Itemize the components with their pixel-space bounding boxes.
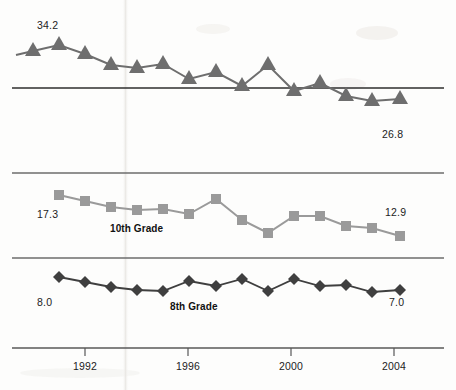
- data-point-marker: [155, 55, 171, 69]
- data-point-marker: [263, 228, 273, 238]
- data-point-marker: [183, 275, 195, 287]
- series-label-8th-grade: 8th Grade: [170, 301, 218, 312]
- data-point-marker: [210, 280, 222, 292]
- page-fold-artifact: [122, 0, 129, 390]
- x-tick-label-1996: 1996: [176, 360, 200, 372]
- data-point-marker: [314, 280, 326, 292]
- chart-canvas: [0, 0, 456, 390]
- data-point-marker: [129, 59, 145, 73]
- data-point-marker: [105, 281, 117, 293]
- data-point-marker: [394, 284, 406, 296]
- data-point-marker: [237, 215, 247, 225]
- data-point-marker: [366, 286, 378, 298]
- data-point-marker: [131, 284, 143, 296]
- data-point-marker: [260, 56, 276, 70]
- data-point-marker: [184, 209, 194, 219]
- data-point-marker: [157, 285, 169, 297]
- data-point-marker: [211, 194, 221, 204]
- label-10th-grade-end: 12.9: [385, 206, 406, 218]
- x-tick-label-1992: 1992: [73, 360, 97, 372]
- data-point-marker: [262, 285, 274, 297]
- data-point-marker: [236, 273, 248, 285]
- series-8th-grade: [53, 271, 406, 298]
- data-point-marker: [312, 74, 328, 88]
- data-point-marker: [315, 211, 325, 221]
- data-point-marker: [289, 211, 299, 221]
- data-point-marker: [288, 273, 300, 285]
- data-point-marker: [132, 205, 142, 215]
- label-8th-grade-start: 8.0: [37, 296, 52, 308]
- data-point-marker: [340, 279, 352, 291]
- data-point-marker: [80, 196, 90, 206]
- series-12th-grade-line: [16, 45, 400, 101]
- series-label-10th-grade: 10th Grade: [110, 223, 163, 234]
- label-8th-grade-end: 7.0: [389, 296, 404, 308]
- data-point-marker: [395, 231, 405, 241]
- data-point-marker: [392, 90, 408, 104]
- label-10th-grade-start: 17.3: [37, 208, 58, 220]
- series-10th-grade: [54, 190, 405, 241]
- label-12th-grade-start: 34.2: [37, 19, 58, 31]
- x-axis: [12, 348, 444, 356]
- data-point-marker: [54, 190, 64, 200]
- data-point-marker: [51, 36, 67, 50]
- trend-chart-figure: 34.2 26.8 17.3 12.9 10th Grade 8.0 7.0 8…: [0, 0, 456, 390]
- data-point-marker: [158, 204, 168, 214]
- data-point-marker: [53, 271, 65, 283]
- panel-divider-rules: [12, 88, 444, 258]
- x-tick-label-2004: 2004: [382, 360, 406, 372]
- label-12th-grade-end: 26.8: [382, 128, 403, 140]
- data-point-marker: [106, 202, 116, 212]
- series-12th-grade: [16, 36, 408, 106]
- data-point-marker: [367, 223, 377, 233]
- x-tick-label-2000: 2000: [279, 360, 303, 372]
- data-point-marker: [341, 221, 351, 231]
- data-point-marker: [208, 63, 224, 77]
- data-point-marker: [79, 276, 91, 288]
